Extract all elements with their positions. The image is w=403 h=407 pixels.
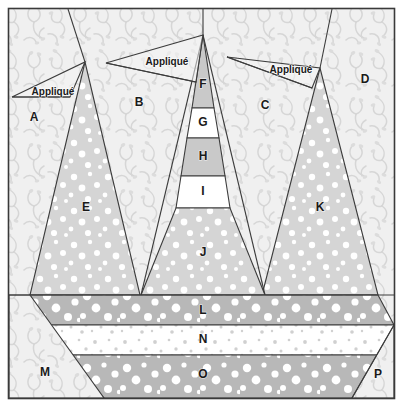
piece-L[interactable] [30, 295, 394, 325]
label-piece-B: B [135, 95, 144, 109]
quilt-diagram-root: A B C D E F G H I J K L M N O P Appliqué… [0, 0, 403, 407]
label-piece-G: G [198, 115, 207, 129]
label-piece-D: D [361, 72, 370, 86]
label-applique-left: Appliqué [32, 86, 75, 97]
label-piece-O: O [198, 367, 207, 381]
label-piece-L: L [199, 303, 206, 317]
label-piece-H: H [199, 149, 208, 163]
label-piece-N: N [199, 332, 208, 346]
label-applique-center: Appliqué [146, 56, 189, 67]
label-piece-P: P [374, 367, 382, 381]
label-piece-I: I [201, 184, 204, 198]
label-applique-right: Appliqué [270, 64, 313, 75]
label-piece-J: J [200, 245, 207, 259]
label-piece-F: F [199, 77, 206, 91]
label-piece-E: E [82, 200, 90, 214]
quilt-block-diagram: A B C D E F G H I J K L M N O P Appliqué… [0, 0, 403, 407]
label-piece-A: A [30, 110, 39, 124]
piece-O[interactable] [64, 355, 394, 398]
label-piece-C: C [261, 98, 270, 112]
label-piece-M: M [40, 365, 50, 379]
label-piece-K: K [316, 200, 325, 214]
piece-N[interactable] [46, 325, 394, 355]
